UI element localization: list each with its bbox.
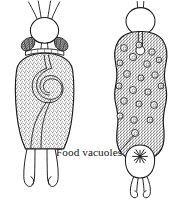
food-vacuole <box>129 53 136 60</box>
specimen-plate: Food vacuoles <box>0 0 179 209</box>
food-vacuole <box>151 102 158 109</box>
illustration-figure: Food vacuoles <box>0 0 179 209</box>
left-stippled-trunk <box>15 53 73 149</box>
food-vacuole <box>130 87 137 94</box>
food-vacuoles-label: Food vacuoles <box>56 146 122 158</box>
food-vacuole <box>132 130 139 137</box>
right-head-capsule <box>126 8 155 35</box>
food-vacuole <box>124 71 131 78</box>
food-vacuole <box>121 45 128 52</box>
